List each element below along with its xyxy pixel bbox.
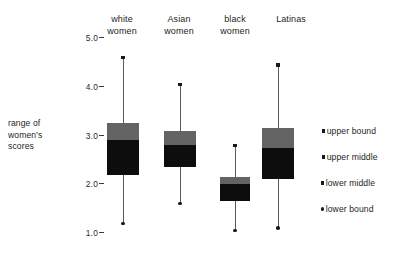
y-tick-dash-icon (99, 37, 104, 38)
lower-bound-marker (276, 226, 279, 229)
y-tick-label-2: 2.0 (62, 179, 98, 189)
box-plot-black-women[interactable] (220, 0, 250, 255)
legend-label: lower middle (326, 178, 375, 188)
box-plot-white-women[interactable] (107, 0, 139, 255)
lower-middle-marker-icon (321, 181, 324, 184)
y-tick-dash-icon (99, 86, 104, 87)
lower-bound-marker (121, 222, 124, 225)
upper-bound-marker (121, 56, 124, 59)
box-plot-chart: range of women's scores 5.0 4.0 3.0 2.0 … (0, 0, 408, 255)
lower-middle-box (262, 148, 294, 180)
y-tick-label-1: 1.0 (62, 228, 98, 238)
box-plot-latinas[interactable] (262, 0, 294, 255)
lower-middle-box (220, 184, 250, 201)
legend-label: upper middle (327, 152, 378, 162)
legend-label: lower bound (326, 204, 374, 214)
upper-middle-marker-icon (322, 155, 325, 158)
box-plot-asian-women[interactable] (164, 0, 196, 255)
upper-bound-marker (276, 63, 279, 66)
legend-item-lower-middle[interactable]: lower middle (321, 178, 375, 188)
legend-label: upper bound (327, 126, 376, 136)
upper-bound-marker-icon (322, 129, 325, 132)
legend-item-upper-middle[interactable]: upper middle (322, 152, 378, 162)
legend-item-upper-bound[interactable]: upper bound (322, 126, 376, 136)
lower-bound-marker (178, 202, 181, 205)
y-tick-label-5: 5.0 (62, 33, 98, 43)
upper-bound-marker (178, 83, 181, 86)
lower-middle-box (107, 140, 139, 174)
y-tick-dash-icon (99, 183, 104, 184)
y-tick-label-4: 4.0 (62, 82, 98, 92)
lower-middle-box (164, 145, 196, 167)
y-axis-title: range of women's scores (8, 118, 66, 153)
y-tick-label-3: 3.0 (62, 131, 98, 141)
upper-middle-box (220, 177, 250, 184)
lower-bound-marker-icon (321, 207, 324, 210)
y-tick-dash-icon (99, 135, 104, 136)
upper-middle-box (107, 123, 139, 140)
y-tick-dash-icon (99, 232, 104, 233)
legend-item-lower-bound[interactable]: lower bound (321, 204, 374, 214)
upper-bound-marker (233, 144, 236, 147)
upper-middle-box (262, 128, 294, 148)
upper-middle-box (164, 131, 196, 146)
lower-bound-marker (233, 229, 236, 232)
